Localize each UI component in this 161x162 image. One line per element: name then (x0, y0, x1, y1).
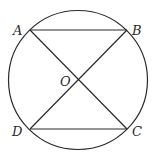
point-label-d: D (11, 124, 23, 139)
point-label-b: B (131, 23, 142, 38)
geometry-diagram: A B C D O (0, 0, 161, 162)
point-label-a: A (12, 23, 22, 38)
point-label-o: O (60, 74, 71, 89)
point-label-c: C (132, 124, 142, 139)
